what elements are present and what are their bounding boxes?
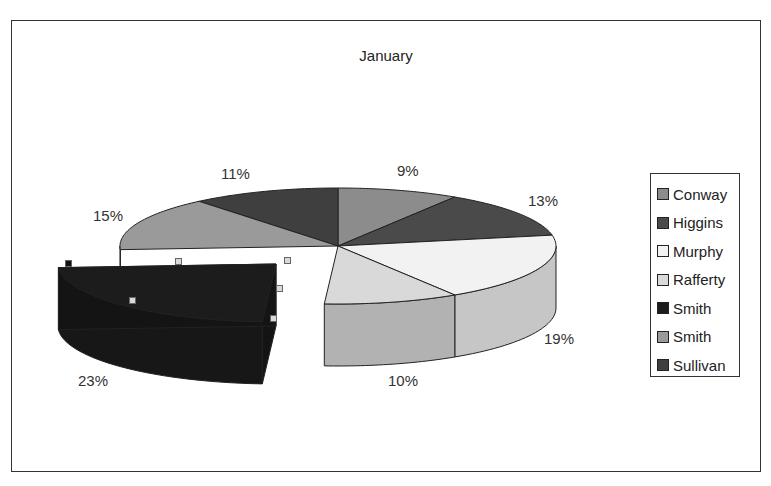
- legend-label: Sullivan: [673, 357, 726, 374]
- legend-label: Smith: [673, 300, 711, 317]
- legend-item-smith-1[interactable]: Smith: [657, 294, 739, 323]
- legend-swatch-icon: [657, 331, 669, 343]
- legend[interactable]: Conway Higgins Murphy Rafferty Smith Smi…: [650, 173, 740, 377]
- data-label-2[interactable]: 19%: [544, 330, 574, 347]
- legend-swatch-icon: [657, 245, 669, 257]
- selection-handle[interactable]: [175, 258, 182, 265]
- legend-item-murphy[interactable]: Murphy: [657, 237, 739, 266]
- selection-handle[interactable]: [129, 297, 136, 304]
- legend-item-higgins[interactable]: Higgins: [657, 209, 739, 238]
- selection-handle[interactable]: [270, 315, 277, 322]
- legend-label: Conway: [673, 186, 727, 203]
- legend-label: Higgins: [673, 214, 723, 231]
- legend-swatch-icon: [657, 359, 669, 371]
- legend-label: Rafferty: [673, 271, 725, 288]
- legend-label: Smith: [673, 328, 711, 345]
- legend-swatch-icon: [657, 274, 669, 286]
- legend-label: Murphy: [673, 243, 723, 260]
- data-label-6[interactable]: 11%: [221, 165, 250, 182]
- selection-handle[interactable]: [65, 260, 72, 267]
- legend-swatch-icon: [657, 188, 669, 200]
- pie-slice-smith[interactable]: [58, 264, 276, 384]
- legend-item-conway[interactable]: Conway: [657, 180, 739, 209]
- legend-swatch-icon: [657, 217, 669, 229]
- selection-handle[interactable]: [284, 257, 291, 264]
- data-label-1[interactable]: 13%: [528, 192, 558, 209]
- legend-item-sullivan[interactable]: Sullivan: [657, 351, 739, 380]
- legend-item-rafferty[interactable]: Rafferty: [657, 266, 739, 295]
- legend-item-smith-2[interactable]: Smith: [657, 323, 739, 352]
- legend-swatch-icon: [657, 302, 669, 314]
- selection-handle[interactable]: [276, 285, 283, 292]
- data-label-5[interactable]: 15%: [93, 207, 123, 224]
- data-label-3[interactable]: 10%: [388, 372, 418, 389]
- data-label-0[interactable]: 9%: [397, 162, 419, 179]
- data-label-4[interactable]: 23%: [78, 372, 108, 389]
